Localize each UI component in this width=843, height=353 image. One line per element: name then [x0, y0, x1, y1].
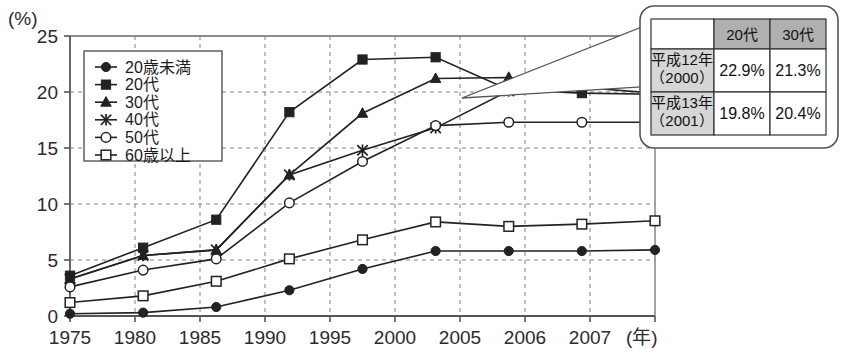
series-0-marker-2 — [212, 302, 221, 311]
series-1-marker-5 — [431, 53, 440, 62]
callout-value-2000-30s: 21.3% — [775, 62, 820, 79]
series-4-marker-2 — [211, 254, 221, 264]
series-5-marker-8 — [650, 216, 660, 226]
callout-value-2000-20s: 22.9% — [719, 62, 764, 79]
legend-label-30代: 30代 — [125, 94, 159, 111]
series-0-marker-4 — [358, 264, 367, 273]
series-0-marker-8 — [650, 245, 659, 254]
callout-value-2001-30s: 20.4% — [775, 105, 820, 122]
x-tick-label-1975: 1975 — [49, 327, 91, 348]
series-5-marker-2 — [211, 276, 221, 286]
callout-header-20s: 20代 — [726, 26, 758, 43]
series-4-marker-3 — [285, 198, 295, 208]
y-tick-label-15: 15 — [37, 138, 58, 159]
x-tick-label-2006: 2006 — [504, 327, 546, 348]
series-0-marker-1 — [139, 308, 148, 317]
line-chart-figure: (%) 25 20 15 10 5 0 1975 1980 1985 1990 … — [0, 0, 843, 353]
callout-value-2001-20s: 19.8% — [719, 105, 764, 122]
callout-rowlabel-2000-line1: 平成12年 — [651, 51, 713, 68]
series-1-marker-3 — [285, 108, 294, 117]
series-5-marker-6 — [504, 222, 514, 232]
series-4-marker-1 — [138, 265, 148, 275]
y-tick-label-10: 10 — [37, 194, 58, 215]
x-tick-label-2000: 2000 — [374, 327, 416, 348]
legend-0-marker-0 — [101, 62, 110, 71]
legend-label-50代: 50代 — [125, 129, 159, 146]
callout-header-30s: 30代 — [782, 26, 814, 43]
x-tick-label-1990: 1990 — [244, 327, 286, 348]
series-0-marker-0 — [65, 309, 74, 318]
series-0-marker-6 — [504, 246, 513, 255]
callout-rowlabel-2001-line1: 平成13年 — [651, 94, 713, 111]
legend-label-60歳以上: 60歳以上 — [125, 147, 191, 164]
x-axis-unit-label: (年) — [626, 327, 658, 348]
series-4-marker-6 — [504, 117, 514, 127]
series-1-marker-2 — [212, 215, 221, 224]
series-4-marker-7 — [577, 117, 587, 127]
x-tick-label-2007: 2007 — [569, 327, 611, 348]
x-tick-label-1995: 1995 — [309, 327, 351, 348]
legend-label-40代: 40代 — [125, 111, 159, 128]
series-5-marker-0 — [65, 298, 75, 308]
callout-table: 20代 30代 平成12年 （2000） 22.9% 21.3% 平成13年 （… — [650, 19, 826, 135]
series-5-marker-7 — [577, 219, 587, 229]
series-5-marker-1 — [138, 291, 148, 301]
callout-rowlabel-2001-line2: （2001） — [650, 112, 713, 129]
callout-corner-cell — [651, 19, 714, 49]
series-4-marker-0 — [65, 282, 75, 292]
legend-label-20代: 20代 — [125, 76, 159, 93]
series-0-marker-7 — [577, 246, 586, 255]
series-4-marker-4 — [358, 157, 368, 167]
x-tick-label-1980: 1980 — [114, 327, 156, 348]
y-tick-label-20: 20 — [37, 82, 58, 103]
series-0-marker-3 — [285, 286, 294, 295]
y-tick-label-25: 25 — [37, 26, 58, 47]
y-axis-unit-label: (%) — [8, 8, 38, 29]
series-5-marker-5 — [431, 217, 441, 227]
series-5-marker-4 — [358, 235, 368, 245]
x-tick-label-1985: 1985 — [179, 327, 221, 348]
y-tick-label-5: 5 — [47, 250, 58, 271]
legend-label-20歳未満: 20歳未満 — [125, 59, 191, 76]
series-5-marker-3 — [285, 254, 295, 264]
series-1-marker-4 — [358, 55, 367, 64]
legend-4-marker-0 — [101, 133, 111, 143]
legend-5-marker-0 — [101, 150, 111, 160]
chart-root: (%) 25 20 15 10 5 0 1975 1980 1985 1990 … — [0, 0, 843, 353]
series-4-marker-5 — [431, 121, 441, 131]
series-0-marker-5 — [431, 246, 440, 255]
x-tick-label-2005: 2005 — [439, 327, 481, 348]
legend-1-marker-0 — [101, 80, 110, 89]
y-tick-label-0: 0 — [47, 306, 58, 327]
callout-rowlabel-2000-line2: （2000） — [650, 69, 713, 86]
